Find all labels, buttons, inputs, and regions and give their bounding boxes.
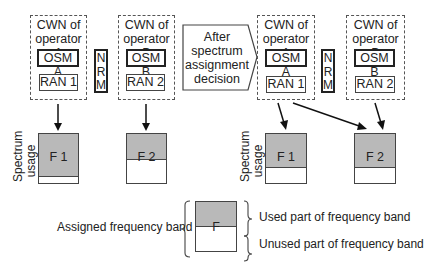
axis-label-line2: usage (252, 140, 265, 182)
nrm-letter-r: R (323, 66, 333, 80)
transition-label: After spectrum assignment decision (183, 30, 251, 86)
nrm-after: N R M (321, 49, 335, 93)
nrm-letter-n: N (323, 52, 333, 66)
brace-unused-icon (244, 236, 252, 261)
spectrum-usage-label-left: Spectrum usage (12, 140, 38, 182)
ran-1-after: RAN 1 (266, 76, 306, 93)
nrm-letter-m: M (323, 79, 333, 93)
arrow-down-icon (142, 123, 150, 131)
arrow-diagonal-icon (357, 122, 367, 130)
band-label: F 1 (39, 150, 78, 164)
band-label: F 1 (266, 150, 306, 164)
cwn-title-line1: CWN of (258, 18, 314, 32)
band-f2-after: F 2 (354, 133, 396, 184)
osm-b-after: OSM B (354, 49, 395, 67)
legend-used-label: Used part of frequency band (259, 210, 410, 224)
band-label: F 2 (127, 150, 166, 164)
axis-label-line2: usage (25, 140, 38, 182)
band-f1-before: F 1 (38, 133, 79, 184)
transition-line4: decision (183, 72, 251, 86)
legend-assigned-label: Assigned frequency band (57, 220, 192, 234)
osm-a-after: OSM A (265, 49, 307, 67)
transition-line3: assignment (183, 58, 251, 72)
band-f1-after: F 1 (265, 133, 307, 184)
transition-line2: spectrum (183, 44, 251, 58)
spectrum-usage-label-right: Spectrum usage (239, 140, 265, 182)
brace-used-icon (244, 201, 252, 236)
ran-2-after: RAN 2 (355, 76, 395, 93)
arrow-down-icon (54, 123, 62, 131)
band-f2-before: F 2 (126, 133, 167, 184)
arrow-down-icon (377, 120, 385, 130)
legend-band: F (195, 201, 237, 252)
arrow-down-icon (280, 120, 288, 130)
legend-unused-label: Unused part of frequency band (259, 237, 424, 251)
cwn-title-line1: CWN of (347, 18, 404, 32)
band-label: F (196, 220, 236, 234)
transition-line1: After (183, 30, 251, 44)
band-label: F 2 (355, 150, 395, 164)
